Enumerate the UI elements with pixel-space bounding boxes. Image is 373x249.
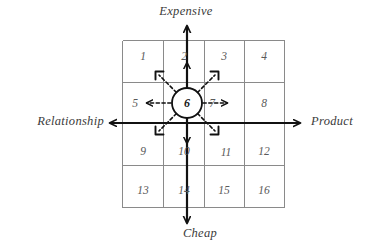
grid-cell-4: 4 <box>261 50 267 62</box>
grid-cell-10: 10 <box>178 145 190 157</box>
grid-cell-16: 16 <box>258 184 270 196</box>
center-cell-6: 6 <box>184 96 190 111</box>
grid-cell-3: 3 <box>221 50 227 62</box>
grid-cell-5: 5 <box>132 97 138 109</box>
axis-label-cheap: Cheap <box>183 226 217 241</box>
diagram-canvas: 1 2 3 4 5 7 8 9 10 11 12 13 14 15 16 6 E… <box>0 0 373 249</box>
arrow-up-left <box>159 75 177 93</box>
grid-cell-14: 14 <box>178 184 190 196</box>
grid-cell-1: 1 <box>140 50 146 62</box>
grid-cell-7: 7 <box>209 97 215 109</box>
arrow-up-right <box>198 75 216 93</box>
grid-cell-8: 8 <box>261 97 267 109</box>
grid-cell-2: 2 <box>181 50 187 62</box>
axis-label-product: Product <box>311 114 353 129</box>
grid-cell-11: 11 <box>221 146 232 158</box>
axis-label-expensive: Expensive <box>159 4 212 19</box>
grid-cell-12: 12 <box>258 145 270 157</box>
grid-cell-15: 15 <box>218 184 230 196</box>
grid-cell-9: 9 <box>140 145 146 157</box>
axis-label-relationship: Relationship <box>37 114 104 129</box>
grid-cell-13: 13 <box>137 184 149 196</box>
